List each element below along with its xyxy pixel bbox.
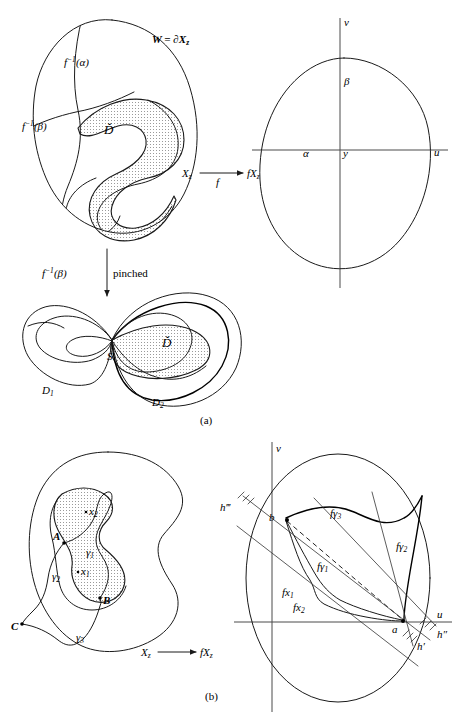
label-axis-v-a: v bbox=[344, 16, 349, 28]
panel-b-map-arrow: Xz fXz bbox=[140, 646, 213, 660]
image-oval-curve-a bbox=[260, 58, 431, 269]
hatch-marks-h-prime bbox=[403, 630, 417, 642]
point-x2-marker bbox=[85, 511, 88, 514]
panel-a-right-shape: v u β α y bbox=[252, 16, 448, 288]
label-point-a: A bbox=[52, 530, 60, 542]
line-h-prime-long bbox=[237, 526, 418, 666]
figure-root: W = ∂Xz f−1(α) f−1(β) Ď Xz f fXz v u β α… bbox=[0, 0, 462, 715]
panel-b-right-shape: v u a b fγ3 fγ2 fγ1 fx1 fx2 h‴ h″ h′ bbox=[220, 442, 452, 712]
panel-a-pinched-shape: S D1 D2 Ď bbox=[23, 293, 242, 410]
label-target-fxz-b: fXz bbox=[200, 646, 213, 660]
image-oval-curve-b bbox=[246, 454, 430, 702]
label-fx2: fx2 bbox=[293, 601, 305, 615]
label-f-inverse-beta-pinched: f−1(β) bbox=[42, 266, 67, 280]
label-f-gamma3: fγ3 bbox=[330, 507, 341, 521]
label-f-inverse-beta: f−1(β) bbox=[22, 119, 47, 133]
point-b-marker-image bbox=[285, 518, 289, 522]
curve-gamma3 bbox=[22, 598, 101, 645]
panel-a-left-shape: W = ∂Xz f−1(α) f−1(β) Ď Xz bbox=[22, 18, 197, 244]
label-pinched-word: pinched bbox=[113, 267, 148, 279]
lobe-left-d1-curve bbox=[23, 306, 112, 386]
label-point-b: B bbox=[102, 594, 110, 606]
label-axis-v-b: v bbox=[276, 442, 281, 454]
label-gamma2: γ2 bbox=[52, 570, 60, 584]
label-region-d-check-pinched: Ď bbox=[161, 335, 172, 350]
label-point-c: C bbox=[11, 620, 19, 632]
label-f-gamma1: fγ1 bbox=[317, 560, 328, 574]
label-map-f-a: f bbox=[216, 176, 221, 188]
label-lobe-d1: D1 bbox=[41, 384, 54, 398]
label-point-beta-a: β bbox=[343, 75, 350, 87]
label-f-gamma2: fγ2 bbox=[396, 540, 407, 554]
label-boundary-w: W = ∂Xz bbox=[152, 33, 189, 47]
panel-b-left-shape: A B C x2 x1 γ1 γ2 γ3 bbox=[11, 452, 183, 652]
point-b-marker-b bbox=[98, 596, 102, 600]
point-a-marker-image bbox=[401, 619, 405, 623]
label-region-d-check-a: Ď bbox=[103, 122, 114, 137]
label-h-prime: h′ bbox=[417, 640, 426, 652]
label-target-fxz-a: fXz bbox=[247, 167, 260, 181]
label-source-xz-b: Xz bbox=[140, 646, 151, 660]
label-axis-u-a: u bbox=[434, 146, 440, 158]
label-gamma3: γ3 bbox=[76, 631, 84, 645]
caption-a: (a) bbox=[200, 414, 213, 427]
label-h-double-prime: h″ bbox=[437, 628, 448, 640]
lobe-left-small-loop bbox=[66, 336, 112, 356]
label-node-s: S bbox=[107, 350, 113, 362]
label-h-triple-prime: h‴ bbox=[220, 501, 232, 513]
point-c-marker-b bbox=[20, 622, 24, 626]
curve-f-gamma3 bbox=[286, 496, 422, 523]
label-domain-xz-a: Xz bbox=[181, 167, 192, 181]
lobe-left-ripple bbox=[28, 322, 64, 328]
region-d-check-shaded-a bbox=[78, 99, 184, 241]
label-point-alpha-a: α bbox=[303, 147, 309, 159]
label-f-inverse-alpha: f−1(α) bbox=[64, 55, 89, 69]
math-figure-diagram: W = ∂Xz f−1(α) f−1(β) Ď Xz f fXz v u β α… bbox=[0, 0, 462, 715]
point-x1-marker bbox=[77, 571, 80, 574]
point-a-marker-b bbox=[62, 541, 66, 545]
panel-a-pinch-arrow: f−1(β) pinched bbox=[42, 249, 148, 296]
panel-a-map-arrow: f fXz bbox=[200, 167, 260, 188]
caption-b: (b) bbox=[205, 690, 218, 703]
label-lobe-d2: D2 bbox=[151, 396, 164, 410]
label-point-b-image: b bbox=[269, 511, 275, 523]
label-point-y-a: y bbox=[342, 147, 348, 159]
label-fx1: fx1 bbox=[282, 586, 294, 600]
label-point-a-image: a bbox=[392, 623, 398, 635]
label-axis-u-b: u bbox=[437, 608, 443, 620]
